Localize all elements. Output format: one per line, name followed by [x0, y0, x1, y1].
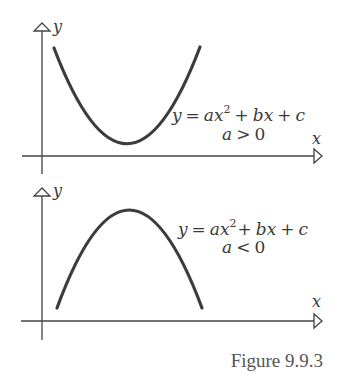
upward-parabola-curve	[54, 47, 200, 144]
x-axis-label: x	[312, 129, 321, 148]
panel-downward-parabola: y x y=ax2+bx+c a<0	[21, 181, 322, 340]
y-axis-arrow-icon	[34, 188, 50, 196]
x-axis-arrow-icon	[314, 314, 322, 328]
y-axis-label: y	[52, 17, 63, 36]
equation-label: y=ax2+bx+c	[171, 103, 306, 125]
panel-upward-parabola: y x y=ax2+bx+c a>0	[22, 17, 322, 174]
equation-label: y=ax2+bx+c	[177, 217, 309, 239]
x-axis-arrow-icon	[314, 149, 322, 163]
y-axis-arrow-icon	[34, 23, 50, 31]
x-axis-label: x	[312, 292, 321, 311]
parabola-figure: y x y=ax2+bx+c a>0 y x y=ax2+bx+c a<0	[0, 0, 347, 383]
condition-label: a<0	[222, 237, 265, 257]
figure-caption: Figure 9.9.3	[231, 350, 323, 371]
condition-label: a>0	[222, 124, 265, 144]
y-axis-label: y	[52, 181, 63, 200]
